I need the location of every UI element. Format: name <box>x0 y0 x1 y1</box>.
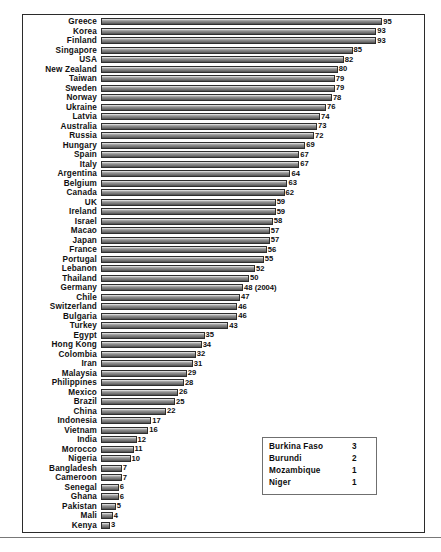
bar-row: Ireland59 <box>23 207 424 217</box>
bar <box>101 455 131 462</box>
bar-value-label: 57 <box>271 236 279 244</box>
bar-value-label: 85 <box>354 46 362 54</box>
bar-track: 69 <box>101 141 424 151</box>
bar-value-label: 48 (2004) <box>244 284 277 292</box>
bar-value-label: 22 <box>167 407 175 415</box>
bar-track: 35 <box>101 331 424 341</box>
side-table-name: Mozambique <box>269 466 352 475</box>
bar <box>101 47 353 54</box>
bar-value-label: 93 <box>377 27 385 35</box>
bar-track: 56 <box>101 245 424 255</box>
bar <box>101 341 202 348</box>
bar-value-label: 69 <box>306 141 314 149</box>
bar-value-label: 78 <box>333 94 341 102</box>
bar <box>101 75 335 82</box>
bar-value-label: 63 <box>288 179 296 187</box>
bar-track: 82 <box>101 55 424 65</box>
category-label: Sweden <box>23 84 101 93</box>
category-label: Mali <box>23 511 101 520</box>
bar-value-label: 79 <box>336 84 344 92</box>
bar-track: 17 <box>101 416 424 426</box>
category-label: Pakistan <box>23 502 101 511</box>
bar-value-label: 59 <box>277 208 285 216</box>
bar-value-label: 56 <box>268 246 276 254</box>
category-label: Cameroon <box>23 473 101 482</box>
bar <box>101 265 255 272</box>
bar-track: 76 <box>101 103 424 113</box>
side-value-table: Burkina Faso3Burundi2Mozambique1Niger1 <box>262 437 377 495</box>
bar-track: 46 <box>101 312 424 322</box>
bar-row: Kenya3 <box>23 521 424 531</box>
bar-track: 67 <box>101 160 424 170</box>
bar-track: 4 <box>101 511 424 521</box>
bar-value-label: 93 <box>377 37 385 45</box>
bar-track: 5 <box>101 502 424 512</box>
category-label: Colombia <box>23 350 101 359</box>
bar-row: Japan57 <box>23 236 424 246</box>
category-label: China <box>23 407 101 416</box>
category-label: France <box>23 245 101 254</box>
bar-value-label: 35 <box>206 331 214 339</box>
category-label: Malaysia <box>23 369 101 378</box>
bar-row: Turkey43 <box>23 321 424 331</box>
bar-track: 50 <box>101 274 424 284</box>
side-table-value: 1 <box>352 478 374 487</box>
side-table-name: Burundi <box>269 454 352 463</box>
bar <box>101 389 178 396</box>
category-label: Morocco <box>23 445 101 454</box>
bar <box>101 503 116 510</box>
bar <box>101 161 299 168</box>
category-label: Canada <box>23 188 101 197</box>
bar <box>101 170 290 177</box>
side-table-value: 1 <box>352 466 374 475</box>
category-label: Finland <box>23 36 101 45</box>
bar-row: France56 <box>23 245 424 255</box>
bar-value-label: 82 <box>345 56 353 64</box>
bar-track: 46 <box>101 302 424 312</box>
category-label: Japan <box>23 236 101 245</box>
category-label: Belgium <box>23 179 101 188</box>
bar-row: Taiwan79 <box>23 74 424 84</box>
bar-value-label: 74 <box>321 113 329 121</box>
bar-value-label: 29 <box>188 369 196 377</box>
category-label: Latvia <box>23 112 101 121</box>
category-label: Macao <box>23 226 101 235</box>
bar <box>101 246 267 253</box>
bar-track: 93 <box>101 36 424 46</box>
category-label: Russia <box>23 131 101 140</box>
category-label: Italy <box>23 160 101 169</box>
bar <box>101 379 184 386</box>
category-label: Germany <box>23 283 101 292</box>
bar-track: 26 <box>101 388 424 398</box>
bar-row: Pakistan5 <box>23 502 424 512</box>
bar-value-label: 58 <box>274 217 282 225</box>
bar-row: Colombia32 <box>23 350 424 360</box>
bar <box>101 180 287 187</box>
bar-row: Korea93 <box>23 27 424 37</box>
bar-value-label: 62 <box>286 189 294 197</box>
category-label: Ukraine <box>23 103 101 112</box>
bar <box>101 522 110 529</box>
bar <box>101 360 193 367</box>
bar <box>101 294 240 301</box>
category-label: Egypt <box>23 331 101 340</box>
category-label: Brazil <box>23 397 101 406</box>
bar-track: 48 (2004) <box>101 283 424 293</box>
bar <box>101 436 137 443</box>
bar-track: 74 <box>101 112 424 122</box>
bar <box>101 85 335 92</box>
category-label: Argentina <box>23 169 101 178</box>
bar <box>101 218 273 225</box>
bar <box>101 370 187 377</box>
bar <box>101 275 249 282</box>
bar-value-label: 4 <box>114 512 118 520</box>
bar-track: 28 <box>101 378 424 388</box>
category-label: Spain <box>23 150 101 159</box>
bar-row: Hungary69 <box>23 141 424 151</box>
bar <box>101 427 148 434</box>
category-label: Singapore <box>23 46 101 55</box>
category-label: Kenya <box>23 521 101 530</box>
bar-row: Finland93 <box>23 36 424 46</box>
bar <box>101 351 196 358</box>
bar-track: 63 <box>101 179 424 189</box>
